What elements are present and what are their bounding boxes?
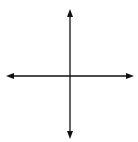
x-axis-left-arrow-icon [6,73,14,79]
x-axis-right-arrow-icon [126,73,134,79]
y-axis-up-arrow-icon [67,9,73,17]
y-axis [67,9,73,139]
y-axis-down-arrow-icon [67,131,73,139]
coordinate-plane [0,0,138,142]
